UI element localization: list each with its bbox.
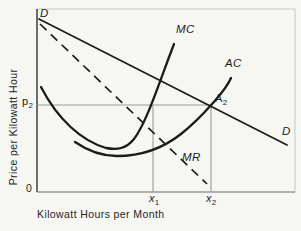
y-axis-caption: Price per Kilowatt Hour: [7, 69, 19, 186]
demand-top-label: D: [40, 8, 49, 20]
economics-diagram: D MC AC D MR A2 p2 x1 x2 0 Price per Kil…: [0, 0, 301, 231]
quantity-x2-sub: 2: [212, 198, 216, 207]
price-p2-label: p2: [22, 96, 33, 110]
quantity-x2-label: x2: [206, 193, 216, 207]
point-a2-base: A: [215, 92, 223, 104]
point-a2-sub: 2: [223, 98, 227, 107]
price-p2-sub: 2: [28, 101, 32, 110]
quantity-x1-label: x1: [149, 193, 159, 207]
point-a2-label: A2: [215, 93, 227, 107]
marginal-revenue-label: MR: [182, 152, 201, 164]
marginal-cost-label: MC: [176, 24, 195, 36]
x-axis-caption: Kilowatt Hours per Month: [37, 208, 164, 220]
average-cost-label: AC: [225, 58, 242, 70]
origin-label: 0: [26, 183, 32, 194]
demand-right-label: D: [282, 126, 291, 138]
quantity-x1-sub: 1: [155, 198, 159, 207]
